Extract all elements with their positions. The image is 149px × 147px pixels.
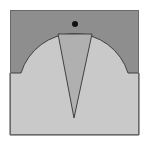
black-dot <box>72 21 78 27</box>
geometric-diagram <box>0 0 149 147</box>
diagram-canvas <box>0 0 149 147</box>
